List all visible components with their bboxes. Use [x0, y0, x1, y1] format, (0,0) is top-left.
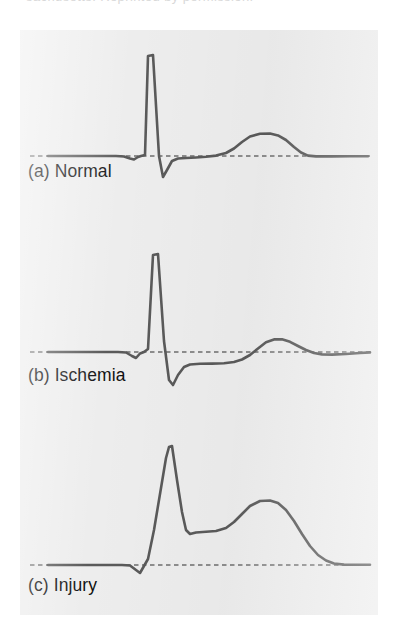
page-top-text-sliver: sachusetts. Reprinted by permission. [0, 0, 400, 9]
page-bottom-margin [0, 615, 400, 640]
ecg-waveform-ischemia [20, 225, 378, 420]
ecg-trace-injury [48, 446, 370, 573]
ecg-panel-label-injury: (c) Injury [28, 575, 97, 596]
ecg-panel-label-ischemia: (b) Ischemia [28, 365, 125, 386]
ecg-panel-normal: (a) Normal [20, 30, 378, 225]
ecg-trace-normal [48, 55, 368, 177]
ecg-waveform-normal [20, 30, 378, 225]
ecg-figure-plate: (a) Normal (b) Ischemia (c) Injury [20, 30, 378, 615]
ecg-panel-label-normal: (a) Normal [28, 161, 112, 182]
page-top-text-sliver-label: sachusetts. Reprinted by permission. [0, 0, 400, 1]
ecg-panel-ischemia: (b) Ischemia [20, 225, 378, 420]
ecg-panel-injury: (c) Injury [20, 420, 378, 615]
